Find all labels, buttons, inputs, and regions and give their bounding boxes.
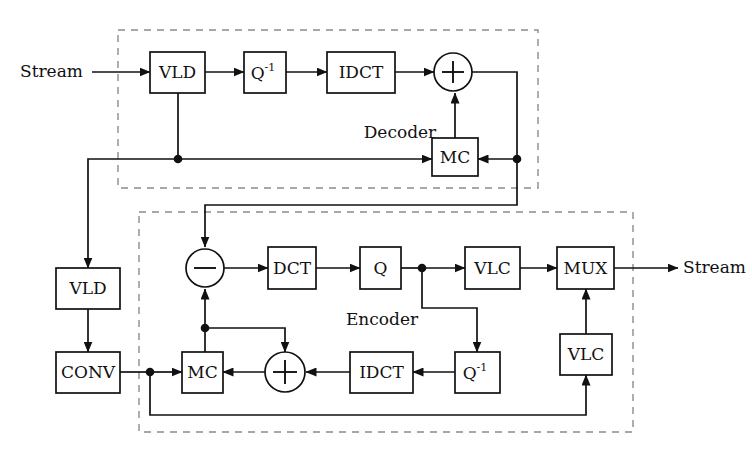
output-stream-label: Stream <box>683 257 746 277</box>
block-enc-idct-label: IDCT <box>359 362 404 382</box>
block-enc-vlc2-label: VLC <box>567 344 605 364</box>
block-side-vld-label: VLD <box>68 278 106 298</box>
block-enc-vlc1-label: VLC <box>473 258 511 278</box>
block-enc-vlc-lower[interactable]: VLC <box>560 334 612 375</box>
junction-enc-conv-tap <box>146 368 155 377</box>
block-enc-inverse-quantizer[interactable]: Q-1 <box>455 352 500 393</box>
block-dec-vld[interactable]: VLD <box>150 52 205 93</box>
block-diagram-canvas: VLD Q-1 IDCT MC VLD CONV DCT Q <box>0 0 752 463</box>
operator-enc-subtractor[interactable] <box>186 249 224 287</box>
operator-enc-adder[interactable] <box>265 352 305 392</box>
wire-enc-mc-tap-to-enc-adder <box>205 328 285 352</box>
block-enc-dct-label: DCT <box>273 258 312 278</box>
block-enc-mux-label: MUX <box>564 258 609 278</box>
input-stream-label: Stream <box>20 61 83 81</box>
block-enc-q-label: Q <box>374 258 388 278</box>
block-enc-dct[interactable]: DCT <box>268 247 316 289</box>
block-dec-inverse-quantizer[interactable]: Q-1 <box>244 52 286 93</box>
block-dec-mc[interactable]: MC <box>432 138 478 176</box>
operator-dec-adder[interactable] <box>434 53 472 91</box>
block-enc-vlc-upper[interactable]: VLC <box>465 247 520 289</box>
block-side-conv-label: CONV <box>61 362 116 382</box>
block-enc-mc-label: MC <box>187 362 217 382</box>
junction-enc-mc-tap <box>201 324 210 333</box>
block-enc-mux[interactable]: MUX <box>557 247 614 289</box>
block-enc-idct[interactable]: IDCT <box>350 352 413 393</box>
diagram-svg: VLD Q-1 IDCT MC VLD CONV DCT Q <box>0 0 752 463</box>
junction-enc-q-tap <box>418 264 427 273</box>
group-label-decoder: Decoder <box>364 122 437 142</box>
block-dec-mc-label: MC <box>440 147 470 167</box>
group-label-encoder: Encoder <box>346 309 419 329</box>
block-side-vld[interactable]: VLD <box>56 268 120 309</box>
block-side-conv[interactable]: CONV <box>56 352 120 393</box>
junction-dec-recon-tap <box>513 155 522 164</box>
wire-dec-vld-tap-to-side-vld <box>88 159 178 268</box>
block-dec-idct-label: IDCT <box>339 62 384 82</box>
block-enc-mc[interactable]: MC <box>182 352 223 393</box>
block-dec-idct[interactable]: IDCT <box>327 52 395 93</box>
junction-dec-vld-tap <box>174 155 183 164</box>
block-enc-quantizer[interactable]: Q <box>360 247 401 289</box>
block-dec-vld-label: VLD <box>158 62 196 82</box>
